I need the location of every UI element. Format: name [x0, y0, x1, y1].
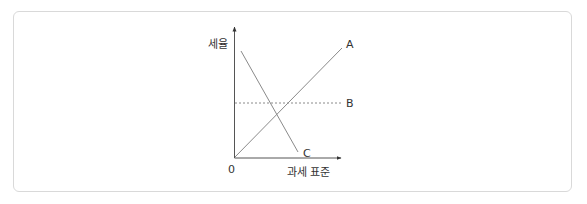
x-axis-label: 과세 표준: [287, 166, 331, 179]
tax-rate-diagram: 세율 A B C 0 과세 표준: [0, 0, 587, 204]
y-axis-label: 세율: [208, 38, 228, 51]
line-a-label: A: [346, 38, 354, 51]
line-c-label: C: [303, 147, 311, 160]
origin-label: 0: [228, 163, 235, 176]
line-b-label: B: [346, 97, 354, 110]
